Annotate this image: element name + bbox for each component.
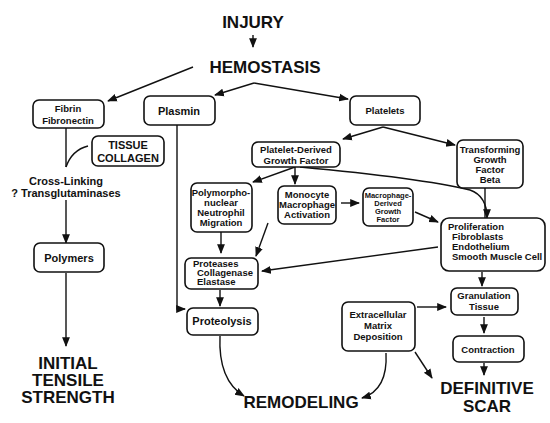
node-granulation-tissue: Granulation Tissue xyxy=(451,288,518,315)
edge-ecm-remodeling xyxy=(362,353,386,398)
node-mdgf: Macrophage- Derived Growth Factor xyxy=(363,188,413,226)
outcome-initial-tensile-strength: INITIAL TENSILE STRENGTH xyxy=(21,354,115,407)
edges xyxy=(66,35,487,398)
node-platelets: Platelets xyxy=(350,96,420,125)
edge-ecm-scar xyxy=(415,352,432,378)
node-ecm: Extracellular Matrix Deposition xyxy=(342,302,415,351)
svg-text:? Transglutaminases: ? Transglutaminases xyxy=(11,187,120,199)
node-plasmin: Plasmin xyxy=(144,96,215,125)
node-tissue-collagen: TISSUE COLLAGEN xyxy=(92,136,164,166)
svg-text:Factor: Factor xyxy=(377,215,400,224)
svg-text:Elastase: Elastase xyxy=(197,276,236,287)
injury-label: INJURY xyxy=(222,13,284,32)
node-contraction: Contraction xyxy=(453,336,524,362)
svg-text:DEFINITIVE: DEFINITIVE xyxy=(440,379,534,398)
svg-text:Fibronectin: Fibronectin xyxy=(42,115,94,126)
svg-text:Granulation: Granulation xyxy=(457,290,511,301)
svg-text:Plasmin: Plasmin xyxy=(158,105,200,117)
svg-text:Smooth Muscle Cell: Smooth Muscle Cell xyxy=(452,251,542,262)
svg-text:Polymers: Polymers xyxy=(44,252,94,264)
node-cross-linking: Cross-Linking ? Transglutaminases xyxy=(11,175,120,199)
edge-mdgf-proliferation xyxy=(415,212,438,222)
edge-hemostasis-plasmin xyxy=(215,83,254,95)
edge-hemostasis-platelets xyxy=(254,83,348,99)
svg-text:Cross-Linking: Cross-Linking xyxy=(29,175,103,187)
node-pdgf: Platelet-Derived Growth Factor xyxy=(252,142,340,167)
svg-text:Growth Factor: Growth Factor xyxy=(264,155,329,166)
edge-proliferation-proteases xyxy=(262,247,438,271)
svg-text:Matrix: Matrix xyxy=(364,320,393,331)
edge-collagen-crosslinking xyxy=(66,146,88,167)
outcome-definitive-scar: DEFINITIVE SCAR xyxy=(440,379,534,416)
wound-healing-diagram: INJURY HEMOSTASIS Fibrin Fibronectin TIS… xyxy=(0,0,550,423)
node-proteolysis: Proteolysis xyxy=(187,308,258,335)
node-pmn: Polymorpho- nuclear Neutrophil Migration xyxy=(191,183,252,232)
node-proteases: Proteases Collagenase Elastase xyxy=(185,258,258,289)
svg-text:Fibrin: Fibrin xyxy=(55,103,82,114)
svg-text:Migration: Migration xyxy=(200,217,243,228)
svg-text:SCAR: SCAR xyxy=(463,397,511,416)
svg-text:Deposition: Deposition xyxy=(353,331,402,342)
edge-platelets-pdgf xyxy=(343,127,383,139)
svg-text:TISSUE: TISSUE xyxy=(108,139,148,151)
node-tgf-beta: Transforming Growth Factor Beta xyxy=(457,140,523,188)
node-proliferation: Proliferation Fibroblasts Endothelium Sm… xyxy=(441,218,545,271)
edge-pdgf-pmn xyxy=(253,167,295,182)
edge-monocyte-proteases xyxy=(256,223,268,256)
svg-text:Beta: Beta xyxy=(480,174,501,185)
outcome-remodeling: REMODELING xyxy=(243,393,358,412)
svg-text:Tissue: Tissue xyxy=(469,301,499,312)
svg-text:Activation: Activation xyxy=(284,209,330,220)
svg-text:Contraction: Contraction xyxy=(461,344,515,355)
svg-text:STRENGTH: STRENGTH xyxy=(21,388,115,407)
svg-text:Extracellular: Extracellular xyxy=(349,309,406,320)
node-monocyte: Monocyte Macrophage Activation xyxy=(278,186,336,224)
svg-text:Proteolysis: Proteolysis xyxy=(192,315,251,327)
edge-platelets-tgfb xyxy=(383,127,455,145)
node-polymers: Polymers xyxy=(34,243,104,272)
svg-text:Platelet-Derived: Platelet-Derived xyxy=(260,144,332,155)
node-fibrin-fibronectin: Fibrin Fibronectin xyxy=(33,100,104,128)
edge-proteolysis-remodeling xyxy=(220,336,244,396)
svg-text:Platelets: Platelets xyxy=(365,105,404,116)
hemostasis-label: HEMOSTASIS xyxy=(209,58,320,77)
svg-text:COLLAGEN: COLLAGEN xyxy=(97,152,159,164)
edge-plasmin-proteolysis xyxy=(177,125,185,309)
